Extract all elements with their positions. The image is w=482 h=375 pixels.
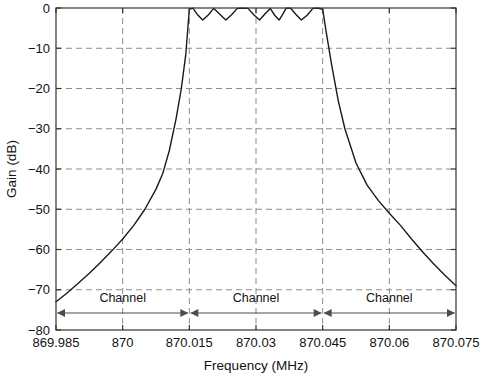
filter-response-figure: ChannelChannelChannel 869.985870870.0158… — [0, 0, 482, 375]
y-tick-label: −20 — [28, 81, 50, 96]
channel-label: Channel — [233, 291, 280, 305]
x-tick-label: 870.075 — [433, 335, 480, 350]
y-tick-label: −30 — [28, 121, 50, 136]
x-tick-label: 870.06 — [369, 335, 409, 350]
y-tick-label: 0 — [43, 1, 50, 16]
chart-canvas: ChannelChannelChannel 869.985870870.0158… — [0, 0, 482, 375]
y-axis-title: Gain (dB) — [4, 140, 19, 198]
y-tick-labels: 0−10−20−30−40−50−60−70−80 — [28, 1, 50, 338]
x-tick-label: 870.045 — [299, 335, 346, 350]
channel-annotations: ChannelChannelChannel — [57, 291, 455, 317]
x-tick-label: 870.03 — [236, 335, 276, 350]
x-tick-label: 870.015 — [166, 335, 213, 350]
x-tick-label: 870 — [112, 335, 134, 350]
y-tick-label: −50 — [28, 202, 50, 217]
y-tick-label: −80 — [28, 323, 50, 338]
y-tick-label: −70 — [28, 282, 50, 297]
channel-label: Channel — [99, 291, 146, 305]
y-tick-label: −60 — [28, 242, 50, 257]
x-axis-title: Frequency (MHz) — [204, 358, 308, 373]
channel-label: Channel — [366, 291, 413, 305]
y-tick-label: −10 — [28, 41, 50, 56]
y-tick-label: −40 — [28, 162, 50, 177]
